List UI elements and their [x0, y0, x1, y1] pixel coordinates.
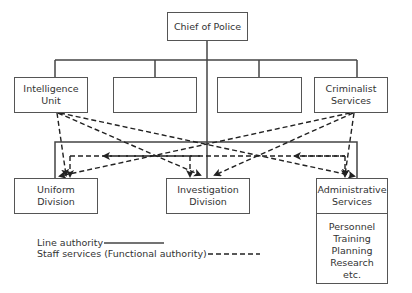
legend-staff-services: Staff services (Functional authority) — [37, 248, 207, 259]
administrative-services-header: Administrative Services — [317, 179, 387, 214]
function-personnel: Personnel — [317, 221, 387, 233]
chief-of-police-label: Chief of Police — [174, 21, 241, 33]
function-training: Training — [317, 233, 387, 245]
function-research: Research — [317, 257, 387, 269]
administrative-functions-list: Personnel Training Planning Research etc… — [317, 214, 387, 281]
line-authority-connectors — [55, 40, 357, 178]
intelligence-unit-label-2: Unit — [41, 95, 60, 107]
uniform-division-label-1: Uniform — [37, 184, 75, 196]
function-planning: Planning — [317, 245, 387, 257]
criminalist-services-label-1: Criminalist — [326, 83, 377, 95]
intelligence-unit-box: Intelligence Unit — [14, 77, 88, 113]
investigation-division-label-1: Investigation — [177, 184, 239, 196]
legend-staff-services-label: Staff services (Functional authority) — [37, 248, 207, 259]
blank-unit-box-2 — [217, 77, 302, 113]
uniform-division-label-2: Division — [37, 196, 75, 208]
legend-line-authority: Line authority — [37, 237, 103, 248]
function-etc: etc. — [317, 269, 387, 281]
intelligence-unit-label-1: Intelligence — [23, 83, 78, 95]
blank-unit-box-1 — [113, 77, 197, 113]
administrative-services-label-1: Administrative — [317, 184, 387, 196]
chief-of-police-box: Chief of Police — [167, 12, 248, 41]
criminalist-services-label-2: Services — [331, 95, 371, 107]
legend-line-authority-label: Line authority — [37, 237, 103, 248]
administrative-services-label-2: Services — [317, 196, 387, 208]
uniform-division-box: Uniform Division — [14, 178, 98, 214]
criminalist-services-box: Criminalist Services — [314, 77, 388, 113]
investigation-division-label-2: Division — [189, 196, 227, 208]
investigation-division-box: Investigation Division — [166, 178, 250, 214]
administrative-services-box: Administrative Services Personnel Traini… — [316, 178, 388, 284]
